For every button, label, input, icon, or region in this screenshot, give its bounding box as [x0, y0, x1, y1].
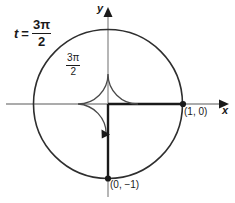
arc-measure-denominator: 2 — [69, 67, 77, 78]
arc-measure-fraction: 3π 2 — [66, 53, 80, 77]
arc-measure-numerator: 3π — [66, 53, 80, 64]
unit-circle-figure: t = 3π 2 3π 2 y x (1, 0) (0, −1) — [0, 0, 235, 203]
y-axis-label: y — [97, 3, 103, 14]
angle-value-label: t = 3π 2 — [14, 18, 51, 49]
equals-sign: = — [21, 27, 29, 40]
y-axis-arrowhead-icon — [104, 7, 113, 17]
angle-value-numerator: 3π — [32, 18, 51, 32]
arc-measure-label: 3π 2 — [66, 53, 80, 77]
angle-value-fraction: 3π 2 — [32, 18, 51, 49]
angle-value-denominator: 2 — [37, 35, 46, 49]
point-label-0-neg1: (0, −1) — [110, 180, 139, 190]
angle-variable-label: t — [14, 27, 18, 40]
x-axis-label: x — [222, 105, 228, 116]
point-label-1-0: (1, 0) — [184, 107, 207, 117]
